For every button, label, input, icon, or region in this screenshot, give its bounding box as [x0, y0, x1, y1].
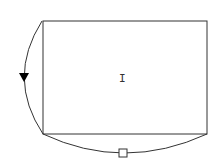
diagram-canvas: [0, 0, 219, 168]
node-label: I: [119, 73, 126, 84]
square-marker-icon[interactable]: [119, 149, 127, 157]
left-curved-edge[interactable]: [24, 21, 43, 134]
arrow-down-icon: [19, 73, 29, 82]
